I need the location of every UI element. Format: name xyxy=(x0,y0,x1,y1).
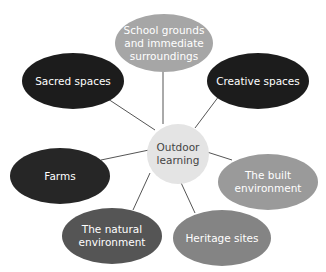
node-label: Sacred spaces xyxy=(35,75,111,88)
node-heritage-sites: Heritage sites xyxy=(173,210,271,266)
node-label: The natural xyxy=(79,223,146,236)
node-label: Creative spaces xyxy=(216,75,300,88)
node-farms: Farms xyxy=(10,148,110,204)
node-label: environment xyxy=(79,236,146,249)
center-label: Outdoor xyxy=(157,141,200,154)
node-label: and immediate xyxy=(124,37,205,50)
node-outdoor-learning-center: Outdoor learning xyxy=(147,124,209,184)
node-label: Farms xyxy=(44,170,75,183)
node-natural-environment: The natural environment xyxy=(62,208,162,264)
node-label: The built xyxy=(235,169,302,182)
center-label: learning xyxy=(157,154,200,167)
node-creative-spaces: Creative spaces xyxy=(207,53,309,109)
node-school-grounds: School grounds and immediate surrounding… xyxy=(115,14,213,72)
node-label: School grounds xyxy=(124,24,205,37)
node-sacred-spaces: Sacred spaces xyxy=(22,53,124,109)
node-label: environment xyxy=(235,182,302,195)
node-label: surroundings xyxy=(124,50,205,63)
node-label: Heritage sites xyxy=(185,232,258,245)
node-built-environment: The built environment xyxy=(218,154,318,210)
